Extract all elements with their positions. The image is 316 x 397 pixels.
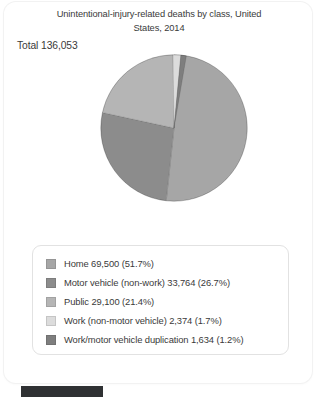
pie-chart xyxy=(100,54,248,202)
total-value-label: Total 136,053 xyxy=(17,40,78,51)
page-title: Unintentional-injury-related deaths by c… xyxy=(30,8,288,35)
legend-item-public[interactable]: Public 29,100 (21.4%) xyxy=(33,292,288,311)
legend-item-work-motor-vehicle-duplication[interactable]: Work/motor vehicle duplication 1,634 (1.… xyxy=(33,330,288,349)
legend-item-label: Public 29,100 (21.4%) xyxy=(64,296,154,307)
legend-item-label: Home 69,500 (51.7%) xyxy=(64,258,154,269)
chart-legend: Home 69,500 (51.7%) Motor vehicle (non-w… xyxy=(32,245,289,355)
legend-item-label: Work/motor vehicle duplication 1,634 (1.… xyxy=(64,334,243,345)
legend-swatch-icon xyxy=(46,335,56,345)
legend-item-work-non-motor-vehicle[interactable]: Work (non-motor vehicle) 2,374 (1.7%) xyxy=(33,311,288,330)
footer-strip xyxy=(0,386,316,397)
legend-swatch-icon xyxy=(46,316,56,326)
legend-item-label: Work (non-motor vehicle) 2,374 (1.7%) xyxy=(64,315,222,326)
legend-swatch-icon xyxy=(46,297,56,307)
chart-title-line-1: Unintentional-injury-related deaths by c… xyxy=(30,8,288,22)
chart-title-line-2: States, 2014 xyxy=(30,22,288,36)
legend-item-motor-vehicle-non-work[interactable]: Motor vehicle (non-work) 33,764 (26.7%) xyxy=(33,273,288,292)
legend-swatch-icon xyxy=(46,278,56,288)
footer-tag-block xyxy=(21,386,103,397)
legend-item-label: Motor vehicle (non-work) 33,764 (26.7%) xyxy=(64,277,230,288)
chart-card: Unintentional-injury-related deaths by c… xyxy=(4,2,312,383)
pie-chart-svg xyxy=(100,54,248,202)
legend-swatch-icon xyxy=(46,259,56,269)
legend-item-home[interactable]: Home 69,500 (51.7%) xyxy=(33,254,288,273)
